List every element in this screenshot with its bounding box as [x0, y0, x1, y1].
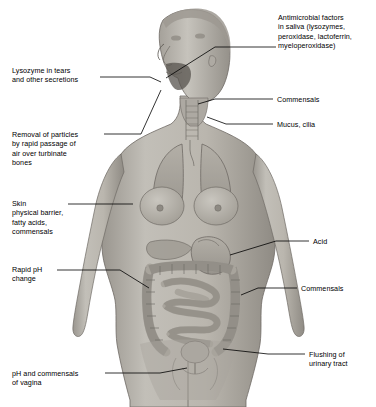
label-flushing-urinary-tract: Flushing of urinary tract [309, 350, 375, 369]
label-lysozyme-tears: Lysozyme in tears and other secretions [12, 66, 112, 85]
label-acid: Acid [313, 237, 373, 246]
head [158, 8, 231, 102]
label-commensals-lower: Commensals [301, 284, 373, 293]
label-rapid-ph-change: Rapid pH change [12, 265, 84, 284]
label-removal-of-particles: Removal of particles by rapid passage of… [12, 130, 116, 167]
label-skin: Skin physical barrier, fatty acids, comm… [12, 199, 104, 236]
label-antimicrobial-saliva: Antimicrobial factors in saliva (lysozym… [278, 13, 376, 50]
label-ph-and-commensals-of-vagina: pH and commensals of vagina [12, 369, 116, 388]
diagram-canvas: Antimicrobial factors in saliva (lysozym… [0, 0, 376, 407]
label-commensals-upper: Commensals [277, 95, 373, 104]
label-mucus-cilia: Mucus, cilia [277, 120, 373, 129]
